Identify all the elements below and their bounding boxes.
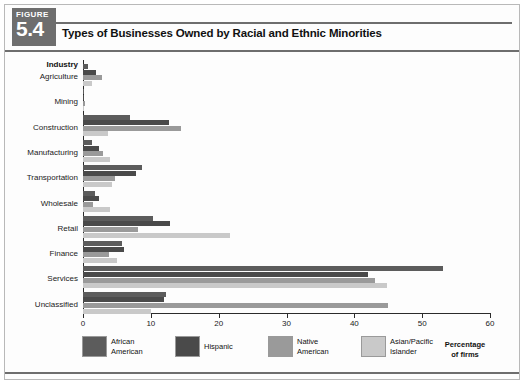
bar-construction-african-american xyxy=(83,115,130,120)
legend-swatch-icon xyxy=(361,336,386,357)
legend-label-line2: American xyxy=(297,347,329,357)
x-tick-label-60: 60 xyxy=(486,319,495,328)
x-axis-caption-line2: of firms xyxy=(430,350,500,360)
y-label-transportation: Transportation xyxy=(0,173,78,182)
footer-divider xyxy=(5,372,519,374)
bar-manufacturing-hispanic xyxy=(83,146,99,151)
bar-mining-asian-pacific-islander xyxy=(83,106,84,111)
bar-manufacturing-asian-pacific-islander xyxy=(83,157,110,162)
legend-label: Hispanic xyxy=(204,342,233,352)
bar-transportation-asian-pacific-islander xyxy=(83,182,112,187)
bar-mining-hispanic xyxy=(83,95,84,100)
y-label-mining: Mining xyxy=(0,97,78,106)
bar-wholesale-african-american xyxy=(83,191,95,196)
bar-wholesale-hispanic xyxy=(83,196,99,201)
legend-label-line1: Asian/Pacific xyxy=(390,337,433,347)
bar-retail-native-american xyxy=(83,227,138,232)
bar-transportation-hispanic xyxy=(83,171,136,176)
y-label-finance: Finance xyxy=(0,249,78,258)
x-tick-20 xyxy=(219,314,220,318)
bar-transportation-native-american xyxy=(83,176,115,181)
bar-agriculture-hispanic xyxy=(83,70,96,75)
x-axis-caption: Percentage of firms xyxy=(430,340,500,359)
y-axis-title: Industry xyxy=(0,60,78,69)
legend-label: Asian/PacificIslander xyxy=(390,337,433,356)
figure-badge-number: 5.4 xyxy=(16,18,56,39)
x-tick-0 xyxy=(83,314,84,318)
y-label-retail: Retail xyxy=(0,224,78,233)
bar-manufacturing-native-american xyxy=(83,151,103,156)
x-tick-label-0: 0 xyxy=(81,319,85,328)
bar-retail-asian-pacific-islander xyxy=(83,233,230,238)
bar-retail-african-american xyxy=(83,216,153,221)
x-axis-caption-line1: Percentage xyxy=(430,340,500,350)
x-tick-60 xyxy=(490,314,491,318)
chart-legend: AfricanAmericanHispanicNativeAmericanAsi… xyxy=(82,334,382,368)
bar-services-hispanic xyxy=(83,272,368,277)
bar-mining-african-american xyxy=(83,89,84,94)
bar-retail-hispanic xyxy=(83,221,170,226)
figure-page: FIGURE 5.4 Types of Businesses Owned by … xyxy=(0,0,526,386)
legend-swatch-icon xyxy=(268,336,293,357)
bar-finance-african-american xyxy=(83,241,122,246)
y-label-construction: Construction xyxy=(0,123,78,132)
bar-construction-hispanic xyxy=(83,120,169,125)
bar-agriculture-native-american xyxy=(83,75,102,80)
bar-finance-hispanic xyxy=(83,247,124,252)
page-title: Types of Businesses Owned by Racial and … xyxy=(62,27,502,39)
bar-agriculture-african-american xyxy=(83,64,88,69)
figure-number-badge: FIGURE 5.4 xyxy=(12,8,56,46)
x-tick-label-30: 30 xyxy=(282,319,291,328)
bar-unclassified-african-american xyxy=(83,292,166,297)
x-tick-label-40: 40 xyxy=(350,319,359,328)
bar-construction-asian-pacific-islander xyxy=(83,131,108,136)
y-label-services: Services xyxy=(0,274,78,283)
bar-finance-native-american xyxy=(83,252,109,257)
bar-services-native-american xyxy=(83,278,375,283)
x-tick-40 xyxy=(354,314,355,318)
bar-mining-native-american xyxy=(83,101,85,106)
x-tick-label-50: 50 xyxy=(418,319,427,328)
x-tick-label-10: 10 xyxy=(146,319,155,328)
title-rule xyxy=(56,22,512,24)
bar-services-african-american xyxy=(83,266,443,271)
legend-label-line1: African xyxy=(111,337,143,347)
x-tick-10 xyxy=(151,314,152,318)
bar-unclassified-asian-pacific-islander xyxy=(83,309,151,314)
y-label-agriculture: Agriculture xyxy=(0,72,78,81)
bar-unclassified-native-american xyxy=(83,303,388,308)
y-label-manufacturing: Manufacturing xyxy=(0,148,78,157)
bar-services-asian-pacific-islander xyxy=(83,283,387,288)
legend-label: AfricanAmerican xyxy=(111,337,143,356)
bar-wholesale-native-american xyxy=(83,202,93,207)
bar-manufacturing-african-american xyxy=(83,140,92,145)
x-tick-50 xyxy=(422,314,423,318)
bar-wholesale-asian-pacific-islander xyxy=(83,207,110,212)
legend-label-line2: Islander xyxy=(390,347,433,357)
y-label-wholesale: Wholesale xyxy=(0,199,78,208)
bar-unclassified-hispanic xyxy=(83,297,164,302)
header-divider xyxy=(5,50,519,52)
bar-construction-native-american xyxy=(83,126,181,131)
legend-label-line1: Hispanic xyxy=(204,342,233,352)
bar-finance-asian-pacific-islander xyxy=(83,258,117,263)
legend-swatch-icon xyxy=(82,336,107,357)
legend-label-line1: Native xyxy=(297,337,329,347)
legend-swatch-icon xyxy=(175,336,200,357)
y-label-unclassified: Unclassified xyxy=(0,300,78,309)
x-tick-30 xyxy=(287,314,288,318)
bar-agriculture-asian-pacific-islander xyxy=(83,81,92,86)
legend-label: NativeAmerican xyxy=(297,337,329,356)
legend-label-line2: American xyxy=(111,347,143,357)
bar-transportation-african-american xyxy=(83,165,142,170)
x-tick-label-20: 20 xyxy=(214,319,223,328)
